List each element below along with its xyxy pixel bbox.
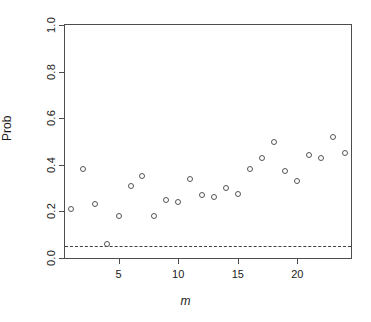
data-point bbox=[151, 213, 157, 219]
data-point bbox=[342, 150, 348, 156]
x-axis-tick bbox=[119, 258, 120, 264]
y-axis-tick-label: 0.8 bbox=[45, 63, 57, 79]
data-point bbox=[294, 178, 300, 184]
x-axis-label: m bbox=[0, 294, 371, 308]
data-point bbox=[68, 206, 74, 212]
data-point bbox=[247, 166, 253, 172]
scatter-plot-figure: Prob 0.00.20.40.60.81.05101520 m bbox=[0, 0, 371, 322]
data-point bbox=[271, 139, 277, 145]
x-axis-tick bbox=[238, 258, 239, 264]
data-point bbox=[116, 213, 122, 219]
y-axis-tick bbox=[59, 165, 65, 166]
plot-box: 0.00.20.40.60.81.05101520 bbox=[64, 24, 352, 259]
data-point bbox=[318, 155, 324, 161]
data-point bbox=[211, 194, 217, 200]
y-axis-tick bbox=[59, 258, 65, 259]
data-point bbox=[330, 134, 336, 140]
data-point bbox=[139, 173, 145, 179]
data-point bbox=[235, 191, 241, 197]
y-axis-tick bbox=[59, 72, 65, 73]
data-point bbox=[259, 155, 265, 161]
x-axis-tick bbox=[178, 258, 179, 264]
data-point bbox=[80, 166, 86, 172]
x-axis-tick bbox=[297, 258, 298, 264]
y-axis-tick-label: 0.2 bbox=[45, 203, 57, 219]
y-axis-tick-label: 0.0 bbox=[45, 250, 57, 266]
data-point bbox=[282, 168, 288, 174]
y-axis-tick bbox=[59, 25, 65, 26]
data-point bbox=[104, 241, 110, 247]
data-point bbox=[128, 183, 134, 189]
x-axis-tick-label: 15 bbox=[232, 268, 244, 280]
y-axis-tick-label: 0.4 bbox=[45, 157, 57, 173]
data-point bbox=[306, 152, 312, 158]
data-point bbox=[187, 176, 193, 182]
y-axis-label: Prob bbox=[0, 116, 14, 141]
data-point bbox=[163, 197, 169, 203]
data-point bbox=[175, 199, 181, 205]
y-axis-tick bbox=[59, 211, 65, 212]
x-axis-tick-label: 10 bbox=[172, 268, 184, 280]
y-axis-tick-label: 1.0 bbox=[45, 17, 57, 33]
data-point bbox=[92, 201, 98, 207]
x-axis-tick-label: 20 bbox=[291, 268, 303, 280]
data-point bbox=[199, 192, 205, 198]
x-axis-tick-label: 5 bbox=[116, 268, 122, 280]
y-axis-tick-label: 0.6 bbox=[45, 110, 57, 126]
y-axis-tick bbox=[59, 118, 65, 119]
data-point bbox=[223, 185, 229, 191]
plot-area bbox=[65, 25, 351, 258]
